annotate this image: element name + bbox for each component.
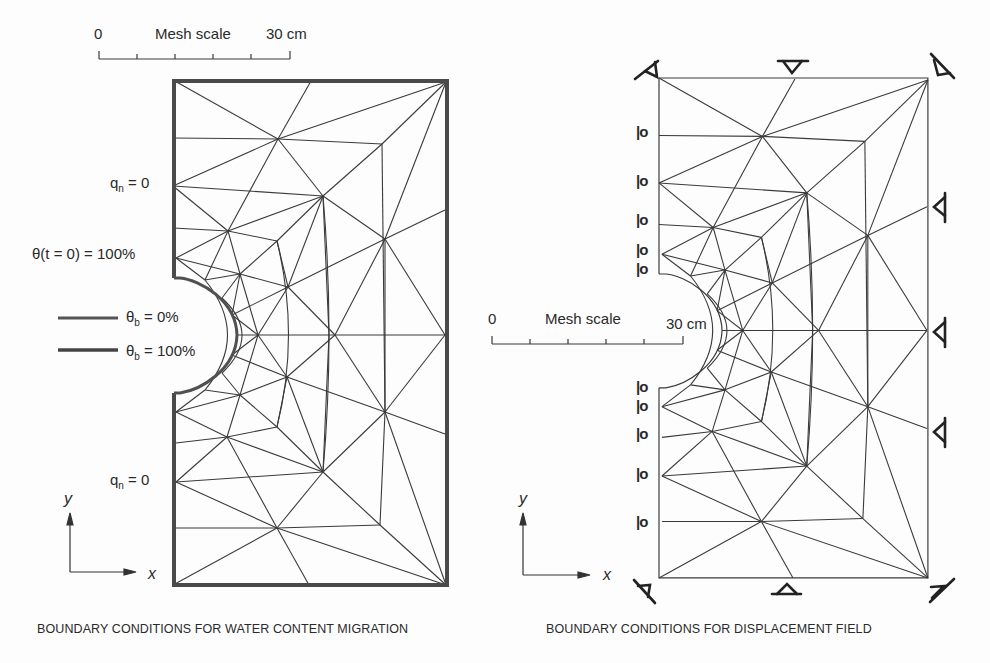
right-mesh-figure [492, 54, 954, 603]
caption-right: BOUNDARY CONDITIONS FOR DISPLACEMENT FIE… [546, 622, 872, 636]
pin-support-top-right [931, 54, 954, 78]
pin-support-right-2 [934, 318, 945, 347]
pin-support-bottom-right [930, 579, 954, 602]
pin-support-right-3 [934, 418, 945, 447]
qn-top-label: qn = 0 [110, 175, 149, 190]
theta-b-0-label: θb = 0% [126, 309, 179, 324]
roller-support: |o [636, 465, 647, 482]
mesh-scale-label-left: Mesh scale [155, 26, 231, 41]
y-axis-label-left: y [64, 490, 72, 508]
roller-support: |o [636, 172, 647, 189]
pin-support-top-mid [778, 61, 808, 73]
pin-support-bottom-mid [772, 584, 801, 594]
diagram-canvas [0, 0, 990, 663]
mesh-scale-label-right: Mesh scale [545, 311, 621, 326]
roller-support: |o [636, 241, 647, 258]
roller-support: |o [636, 211, 647, 228]
left-mesh-figure [58, 51, 447, 585]
boundary-thick [174, 81, 447, 585]
qn-bottom-label: qn = 0 [110, 472, 149, 487]
mesh-scale-end-right: 30 cm [666, 316, 707, 331]
theta-initial-label: θ(t = 0) = 100% [32, 246, 135, 261]
x-axis-label-left: x [148, 565, 156, 583]
pin-support-top-left [635, 61, 658, 79]
roller-support: |o [636, 260, 647, 277]
y-axis-label-right: y [519, 490, 527, 508]
x-axis-label-right: x [603, 566, 611, 584]
roller-support: |o [636, 397, 647, 414]
pin-support-bottom-left [634, 580, 655, 603]
roller-support: |o [636, 513, 647, 530]
axes-right [520, 513, 590, 578]
roller-support: |o [636, 378, 647, 395]
mesh-scale-start-right: 0 [488, 311, 496, 326]
axes-left [67, 513, 136, 575]
pin-support-right-1 [934, 193, 945, 222]
roller-support: |o [636, 123, 647, 140]
theta-b-100-label: θb = 100% [126, 343, 195, 358]
mesh-scale-bar-right [492, 336, 683, 344]
mesh-scale-end-left: 30 cm [266, 26, 307, 41]
mesh-scale-bar-left [99, 51, 290, 59]
caption-left: BOUNDARY CONDITIONS FOR WATER CONTENT MI… [37, 622, 408, 636]
mesh-scale-start-left: 0 [94, 26, 102, 41]
roller-support: |o [636, 425, 647, 442]
